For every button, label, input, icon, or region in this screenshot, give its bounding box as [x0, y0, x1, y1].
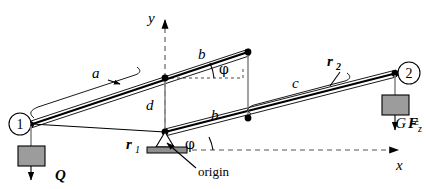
linkage-diagram-svg: 1 2 Q a b φ d b φ c r 1 r: [0, 0, 428, 189]
length-a-label: a: [92, 65, 100, 81]
vector-r2-subscript: 2: [335, 61, 341, 72]
load-G-mass-box: [382, 95, 409, 115]
node-badge-2-label: 2: [406, 66, 413, 81]
vector-r1-label: r: [126, 136, 132, 152]
x-axis-label: x: [395, 157, 403, 173]
ground-bar: [147, 147, 187, 153]
y-axis-label: y: [146, 10, 155, 26]
vector-r1-subscript: 1: [135, 144, 140, 155]
vector-r1-line: [32, 124, 165, 132]
length-c-label: c: [292, 75, 299, 91]
load-Q-label: Q: [55, 167, 66, 183]
angle-phi-upper-arc: [210, 63, 214, 78]
load-Q-mass-box: [18, 146, 45, 166]
lower-beam-centerline: [165, 74, 395, 133]
load-G-force-symbol: F: [407, 115, 418, 131]
origin-label: origin: [198, 164, 230, 179]
angle-phi-lower-label: φ: [185, 136, 195, 152]
joint-dot-lower-mid: [245, 115, 252, 122]
node-badge-1-label: 1: [17, 117, 24, 132]
angle-phi-lower-arc: [209, 137, 213, 150]
length-b-lower-label: b: [211, 107, 219, 123]
joint-dot-upper-mid: [162, 75, 169, 82]
length-b-upper-label: b: [198, 46, 206, 62]
angle-phi-upper-label: φ: [219, 61, 229, 77]
length-d-label: d: [146, 97, 154, 113]
figure-canvas: 1 2 Q a b φ d b φ c r 1 r: [0, 0, 428, 189]
load-G-force-subscript: z: [417, 123, 422, 134]
joint-dot-top-right: [245, 49, 252, 56]
vector-r2-label: r: [327, 53, 333, 69]
